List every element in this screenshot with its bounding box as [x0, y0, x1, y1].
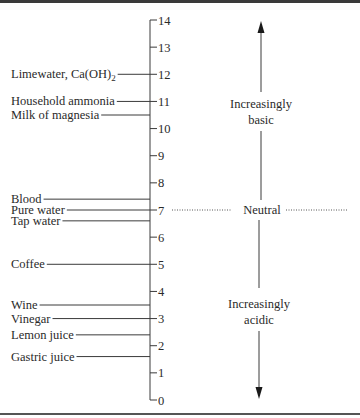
substance-label: Household ammonia: [11, 94, 115, 108]
basic-label-line1: Increasingly: [230, 97, 293, 111]
substance-label: Milk of magnesia: [11, 108, 100, 122]
up-arrow-icon: [258, 21, 265, 33]
tick-label: 8: [158, 176, 164, 190]
tick-label: 3: [158, 312, 164, 326]
tick-label: 5: [158, 258, 164, 272]
acidic-label-line1: Increasingly: [228, 297, 291, 311]
tick-label: 0: [158, 394, 164, 408]
down-arrow-icon: [256, 387, 263, 399]
substance-labels: Limewater, Ca(OH)2Household ammoniaMilk …: [11, 67, 150, 363]
tick-label: 14: [158, 14, 171, 28]
tick-label: 1: [158, 366, 164, 380]
acidic-label-line2: acidic: [244, 313, 274, 327]
tick-label: 4: [158, 285, 165, 299]
ph-scale-diagram: 14131211109876543210 Limewater, Ca(OH)2H…: [0, 0, 360, 418]
tick-label: 7: [158, 204, 164, 218]
substance-label: Tap water: [11, 214, 61, 228]
substance-label: Lemon juice: [11, 328, 74, 342]
tick-label: 12: [158, 68, 171, 82]
tick-label: 2: [158, 339, 164, 353]
substance-label: Wine: [11, 298, 38, 312]
tick-label: 13: [158, 41, 171, 55]
tick-label: 11: [158, 95, 170, 109]
substance-label: Vinegar: [11, 312, 51, 326]
bottom-border: [0, 413, 360, 415]
substance-label: Gastric juice: [11, 350, 75, 364]
scale-ticks: 14131211109876543210: [150, 14, 171, 408]
tick-label: 10: [158, 122, 171, 136]
tick-label: 9: [158, 149, 164, 163]
neutral-label: Neutral: [243, 203, 281, 217]
substance-label: Coffee: [11, 257, 45, 271]
tick-label: 6: [158, 231, 164, 245]
basic-label-line2: basic: [248, 113, 274, 127]
substance-label: Limewater, Ca(OH)2: [11, 67, 116, 83]
